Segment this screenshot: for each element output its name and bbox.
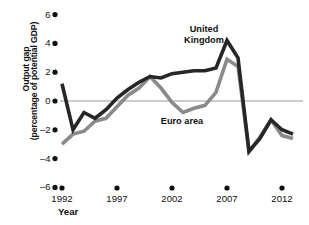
x-tick-dot bbox=[279, 185, 284, 190]
y-tick-label: 0 bbox=[28, 95, 50, 106]
x-axis-title: Year bbox=[58, 206, 78, 217]
y-tick-label: 4 bbox=[28, 37, 50, 48]
y-tick-dot bbox=[52, 156, 57, 161]
y-tick-dot bbox=[52, 41, 57, 46]
y-tick-dot bbox=[52, 12, 57, 17]
output-gap-chart: Output gap (percentage of potential GDP)… bbox=[0, 0, 309, 225]
y-tick-label: –6 bbox=[28, 181, 50, 192]
y-tick-label: 2 bbox=[28, 66, 50, 77]
series-annotation-uk-line1: United bbox=[190, 24, 219, 34]
y-tick-dot bbox=[52, 98, 57, 103]
series-line-united-kingdom bbox=[62, 41, 293, 152]
y-tick-dot bbox=[52, 70, 57, 75]
x-tick-label: 1997 bbox=[97, 193, 137, 204]
y-axis-tick-dots bbox=[52, 12, 57, 190]
x-tick-dot bbox=[169, 185, 174, 190]
y-tick-dot bbox=[52, 127, 57, 132]
x-tick-dot bbox=[114, 185, 119, 190]
x-tick-label: 2007 bbox=[207, 193, 247, 204]
x-tick-dot bbox=[59, 185, 64, 190]
series-annotation-euro-line1: Euro area bbox=[161, 116, 203, 126]
x-tick-label: 2002 bbox=[152, 193, 192, 204]
x-tick-dot bbox=[224, 185, 229, 190]
x-tick-label: 2012 bbox=[262, 193, 302, 204]
y-axis-title-text-2: (percentage of potential GDP) bbox=[30, 0, 39, 166]
y-tick-dot bbox=[52, 185, 57, 190]
y-tick-label: 6 bbox=[28, 9, 50, 20]
y-tick-label: –4 bbox=[28, 153, 50, 164]
series-annotation-uk-line2: Kingdom bbox=[184, 35, 224, 45]
x-axis-tick-dots bbox=[59, 185, 284, 190]
series-annotation-united-kingdom: United Kingdom bbox=[178, 24, 230, 46]
x-tick-label: 1992 bbox=[42, 193, 82, 204]
y-tick-label: –2 bbox=[28, 124, 50, 135]
y-axis-title-line-2: (percentage of potential GDP) bbox=[30, 0, 52, 166]
series-annotation-euro-area: Euro area bbox=[152, 116, 212, 127]
